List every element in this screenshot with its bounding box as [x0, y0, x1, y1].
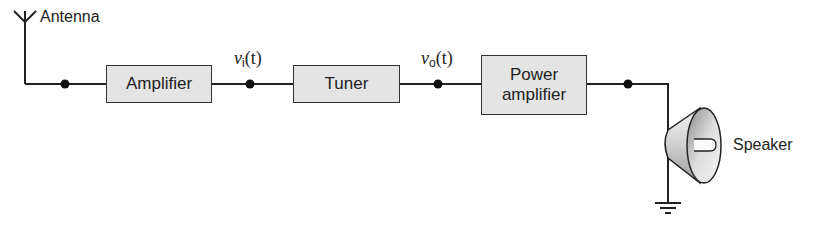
power-amplifier-label-line2: amplifier	[502, 85, 566, 105]
tuner-block: Tuner	[293, 65, 400, 103]
node-dot	[624, 80, 633, 89]
node-dot-vo	[434, 80, 443, 89]
amplifier-block: Amplifier	[106, 65, 212, 103]
signal-label-vo: vo(t)	[421, 48, 453, 70]
node-dot-vi	[246, 80, 255, 89]
signal-label-vi: vi(t)	[234, 48, 262, 70]
antenna-icon	[14, 11, 36, 84]
node-dot	[61, 80, 70, 89]
tuner-label: Tuner	[325, 74, 369, 94]
antenna-label: Antenna	[40, 8, 100, 26]
circuit-wiring	[0, 0, 814, 228]
speaker-label: Speaker	[733, 136, 793, 154]
speaker-icon	[665, 108, 721, 183]
power-amplifier-block: Power amplifier	[481, 55, 587, 115]
ground-icon	[655, 203, 681, 213]
power-amplifier-label-line1: Power	[510, 65, 558, 85]
amplifier-label: Amplifier	[126, 74, 192, 94]
